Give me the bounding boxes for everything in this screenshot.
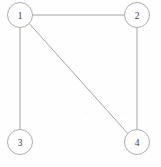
node-2[interactable]: 2 — [125, 3, 150, 28]
node-3[interactable]: 3 — [8, 130, 33, 155]
graph-canvas: 1 2 3 4 — [0, 0, 161, 167]
edge-layer — [20, 15, 137, 134]
graph-diagram: 1 2 3 4 — [0, 0, 161, 167]
edge-1-4 — [29, 24, 128, 134]
node-1[interactable]: 1 — [8, 3, 33, 28]
node-4-label: 4 — [135, 138, 140, 148]
node-3-label: 3 — [18, 138, 23, 148]
node-2-label: 2 — [135, 11, 140, 21]
node-4[interactable]: 4 — [125, 130, 150, 155]
node-1-label: 1 — [18, 11, 23, 21]
